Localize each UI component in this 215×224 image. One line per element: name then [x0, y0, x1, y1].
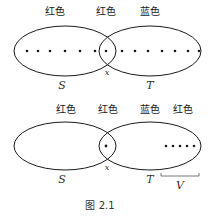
top-label-t: 蓝色 [140, 5, 160, 17]
bottom-label-v: 红色 [173, 103, 193, 115]
figure: 红色 红色 蓝色 x S T 红色 红色 蓝色 红色 [0, 0, 215, 224]
bottom-set-s: S [58, 173, 66, 186]
top-diagram: 红色 红色 蓝色 x S T [14, 5, 201, 92]
top-ellipse-t [99, 26, 201, 76]
subset-bracket [161, 173, 199, 176]
top-set-s: S [58, 79, 66, 92]
bottom-ellipse-t [99, 122, 201, 170]
bottom-label-s: 红色 [56, 103, 76, 115]
bottom-label-x: 红色 [98, 103, 118, 115]
top-label-s: 红色 [45, 5, 65, 17]
top-point-x: x [105, 68, 110, 77]
figure-caption: 图 2.1 [85, 200, 114, 211]
top-dots [26, 50, 201, 53]
bottom-dots [105, 145, 196, 148]
bottom-subset-v: V [176, 179, 185, 192]
top-set-t: T [146, 79, 155, 92]
top-label-x: 红色 [96, 5, 116, 17]
bottom-set-t: T [146, 173, 155, 186]
bottom-ellipse-s [14, 122, 116, 170]
bottom-label-t: 蓝色 [140, 103, 160, 115]
bottom-diagram: 红色 红色 蓝色 红色 x S T V [14, 103, 201, 192]
bottom-point-x: x [105, 163, 110, 172]
